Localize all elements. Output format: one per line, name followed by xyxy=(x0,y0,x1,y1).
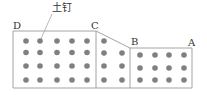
nails-section-cb xyxy=(101,38,125,83)
callout-leader xyxy=(40,14,52,41)
nails-section-ba xyxy=(137,52,187,83)
point-b-label: B xyxy=(131,37,138,47)
point-d-label: D xyxy=(13,21,21,31)
point-a-label: A xyxy=(188,38,195,48)
point-c-label: C xyxy=(91,21,99,31)
soil-nail-diagram xyxy=(0,0,207,95)
soil-nail-label: 土钉 xyxy=(52,3,72,13)
nails-section-dc xyxy=(23,38,90,83)
